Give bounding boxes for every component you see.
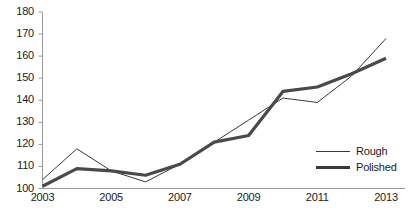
legend-label-polished: Polished xyxy=(350,161,397,173)
y-tick-label: 180 xyxy=(4,6,34,17)
legend-line-icon-rough xyxy=(316,146,350,156)
y-tick-label: 170 xyxy=(4,28,34,39)
legend-item-polished: Polished xyxy=(316,159,408,175)
legend-label-rough: Rough xyxy=(350,145,387,157)
y-tick-label: 130 xyxy=(4,116,34,127)
x-tick-label: 2009 xyxy=(229,192,269,203)
legend-item-rough: Rough xyxy=(316,143,408,159)
x-tick-label: 2005 xyxy=(91,192,131,203)
y-tick-label: 150 xyxy=(4,72,34,83)
legend-line-icon-polished xyxy=(316,162,350,172)
x-tick-label: 2013 xyxy=(366,192,406,203)
line-chart: 100110120130140150160170180 200320052007… xyxy=(0,0,412,215)
chart-legend: Rough Polished xyxy=(316,143,408,175)
y-tick-label: 120 xyxy=(4,138,34,149)
y-axis-ticks xyxy=(39,12,43,189)
y-tick-label: 110 xyxy=(4,160,34,171)
y-tick-label: 140 xyxy=(4,94,34,105)
chart-canvas xyxy=(0,0,412,215)
x-tick-label: 2011 xyxy=(297,192,337,203)
x-tick-label: 2003 xyxy=(23,192,63,203)
y-tick-label: 160 xyxy=(4,50,34,61)
x-tick-label: 2007 xyxy=(160,192,200,203)
